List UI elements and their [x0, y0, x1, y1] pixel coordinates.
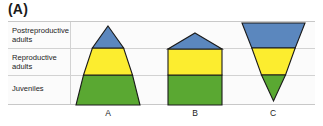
- pyramid-a-segment-reproductive: [84, 48, 133, 75]
- pyramid-c-segment-postreproductive: [242, 23, 305, 48]
- pyramid-a-segment-juveniles: [76, 75, 140, 105]
- category-label-juveniles: Juveniles: [12, 84, 70, 93]
- category-label-postreproductive-line1: Postreproductive: [12, 26, 70, 35]
- pyramid-b: [168, 33, 222, 105]
- category-label-reproductive: Reproductive adults: [12, 53, 70, 71]
- figure-panel-a: (A) Postreproductive adults Reproductive…: [0, 0, 323, 126]
- chart-frame: Postreproductive adults Reproductive adu…: [8, 21, 315, 105]
- panel-label: (A): [8, 1, 28, 17]
- axis-tick-label-b: B: [183, 108, 207, 118]
- category-label-postreproductive: Postreproductive adults: [12, 26, 70, 44]
- pyramid-b-segment-juveniles: [168, 75, 222, 105]
- pyramid-c-segment-juveniles: [262, 75, 286, 101]
- axis-tick-label-c: C: [261, 108, 285, 118]
- label-chart-divider: [70, 22, 71, 104]
- axis-tick-label-a: A: [96, 108, 120, 118]
- category-label-reproductive-line2: adults: [12, 62, 70, 71]
- category-label-juveniles-line1: Juveniles: [12, 84, 70, 93]
- category-label-postreproductive-line2: adults: [12, 35, 70, 44]
- pyramid-c-segment-reproductive: [252, 48, 295, 75]
- pyramid-b-segment-reproductive: [168, 49, 222, 75]
- pyramid-c: [242, 23, 305, 101]
- category-label-column: Postreproductive adults Reproductive adu…: [8, 22, 70, 104]
- pyramid-b-segment-postreproductive: [168, 33, 222, 49]
- pyramid-a-segment-postreproductive: [92, 26, 123, 48]
- pyramid-a: [76, 26, 140, 105]
- category-label-reproductive-line1: Reproductive: [12, 53, 70, 62]
